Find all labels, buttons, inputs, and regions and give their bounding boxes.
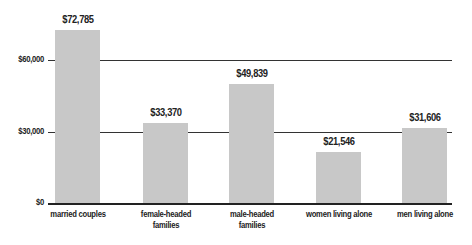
y-tick-label: $60,000 xyxy=(8,54,44,64)
category-label: female-headedfamilies xyxy=(123,209,208,231)
category-label-line: married couples xyxy=(35,209,120,220)
category-label: men living alone xyxy=(382,209,467,220)
category-label-line: male-headed xyxy=(209,209,294,220)
category-label-line: men living alone xyxy=(382,209,467,220)
bar-0 xyxy=(55,30,100,203)
value-label: $72,785 xyxy=(44,13,112,25)
value-label: $31,606 xyxy=(391,111,459,123)
category-label-line: families xyxy=(209,220,294,231)
category-label-line: families xyxy=(123,220,208,231)
category-label: women living alone xyxy=(296,209,381,220)
value-label: $33,370 xyxy=(132,106,200,118)
gridline xyxy=(48,60,452,61)
category-label-line: women living alone xyxy=(296,209,381,220)
category-label-line: female-headed xyxy=(123,209,208,220)
bar-2 xyxy=(229,84,274,203)
value-label: $21,546 xyxy=(305,135,373,147)
bar-4 xyxy=(402,128,447,203)
bar-chart: $0$30,000$60,000$72,785married couples$3… xyxy=(0,0,472,245)
bar-3 xyxy=(316,152,361,203)
category-label: married couples xyxy=(35,209,120,220)
y-tick-label: $0 xyxy=(8,197,44,207)
bar-1 xyxy=(143,123,188,203)
value-label: $49,839 xyxy=(218,67,286,79)
category-label: male-headedfamilies xyxy=(209,209,294,231)
y-tick-label: $30,000 xyxy=(8,126,44,136)
